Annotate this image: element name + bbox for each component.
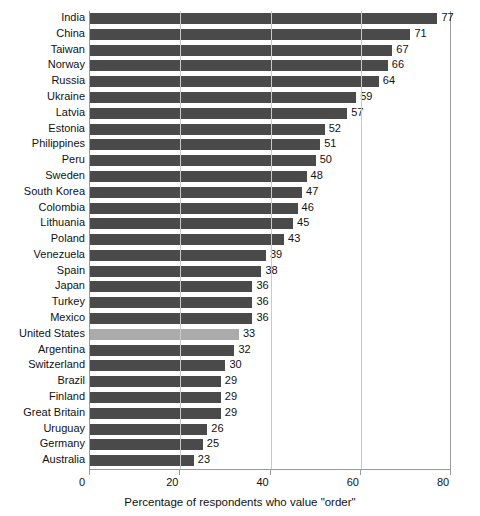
bar-value-label: 25 — [207, 437, 219, 450]
category-label-poland: Poland — [0, 232, 85, 245]
bar-venezuela — [90, 250, 266, 261]
bar-value-label: 71 — [414, 27, 426, 40]
category-label-great-britain: Great Britain — [0, 406, 85, 419]
plot-area: 7771676664595752515048474645433938363636… — [89, 11, 451, 469]
bar-value-label: 48 — [311, 169, 323, 182]
category-axis-labels: IndiaChinaTaiwanNorwayRussiaUkraineLatvi… — [0, 11, 85, 469]
bar-value-label: 47 — [306, 185, 318, 198]
bar-value-label: 51 — [324, 137, 336, 150]
bar-latvia — [90, 108, 347, 119]
category-label-norway: Norway — [0, 58, 85, 71]
bar-peru — [90, 155, 316, 166]
bar-chart: IndiaChinaTaiwanNorwayRussiaUkraineLatvi… — [0, 0, 480, 516]
category-label-switzerland: Switzerland — [0, 358, 85, 371]
x-axis-title: Percentage of respondents who value "ord… — [0, 496, 480, 508]
bar-switzerland — [90, 360, 225, 371]
bar-value-label: 66 — [392, 58, 404, 71]
bar-value-label: 64 — [383, 74, 395, 87]
bar-australia — [90, 455, 194, 466]
bar-colombia — [90, 203, 298, 214]
bar-value-label: 59 — [360, 90, 372, 103]
category-label-argentina: Argentina — [0, 343, 85, 356]
x-tick-80 — [450, 469, 451, 475]
bar-value-label: 39 — [270, 248, 282, 261]
category-label-germany: Germany — [0, 437, 85, 450]
bar-united-states — [90, 329, 239, 340]
bar-value-label: 36 — [256, 311, 268, 324]
bar-norway — [90, 60, 388, 71]
category-label-estonia: Estonia — [0, 122, 85, 135]
category-label-colombia: Colombia — [0, 201, 85, 214]
bar-estonia — [90, 124, 325, 135]
bar-brazil — [90, 376, 221, 387]
bar-ukraine — [90, 92, 356, 103]
category-label-finland: Finland — [0, 390, 85, 403]
category-label-united-states: United States — [0, 327, 85, 340]
bar-value-label: 38 — [265, 264, 277, 277]
x-tick-label-80: 80 — [437, 476, 449, 489]
bar-mexico — [90, 313, 252, 324]
bar-spain — [90, 266, 261, 277]
bar-value-label: 36 — [256, 295, 268, 308]
category-label-uruguay: Uruguay — [0, 422, 85, 435]
x-tick-label-60: 60 — [347, 476, 359, 489]
bar-value-label: 46 — [302, 201, 314, 214]
x-tick-label-40: 40 — [256, 476, 268, 489]
x-tick-label-0: 0 — [79, 476, 85, 489]
category-label-sweden: Sweden — [0, 169, 85, 182]
bar-argentina — [90, 345, 234, 356]
bar-value-label: 33 — [243, 327, 255, 340]
bar-great-britain — [90, 408, 221, 419]
category-label-taiwan: Taiwan — [0, 43, 85, 56]
bar-value-label: 45 — [297, 216, 309, 229]
category-label-mexico: Mexico — [0, 311, 85, 324]
bar-value-label: 67 — [396, 43, 408, 56]
gridline-40 — [271, 11, 272, 469]
x-tick-20 — [179, 469, 180, 475]
bar-finland — [90, 392, 221, 403]
category-label-russia: Russia — [0, 74, 85, 87]
bar-poland — [90, 234, 284, 245]
category-label-spain: Spain — [0, 264, 85, 277]
x-tick-label-20: 20 — [166, 476, 178, 489]
bar-uruguay — [90, 424, 207, 435]
bar-japan — [90, 281, 252, 292]
x-tick-60 — [360, 469, 361, 475]
bar-india — [90, 13, 437, 24]
category-label-brazil: Brazil — [0, 374, 85, 387]
bar-china — [90, 29, 410, 40]
category-label-philippines: Philippines — [0, 137, 85, 150]
category-label-lithuania: Lithuania — [0, 216, 85, 229]
bar-value-label: 36 — [256, 279, 268, 292]
x-tick-40 — [270, 469, 271, 475]
bar-lithuania — [90, 218, 293, 229]
category-label-latvia: Latvia — [0, 106, 85, 119]
category-label-australia: Australia — [0, 453, 85, 466]
category-label-china: China — [0, 27, 85, 40]
category-label-india: India — [0, 11, 85, 24]
bar-value-label: 23 — [198, 453, 210, 466]
bar-value-label: 29 — [225, 374, 237, 387]
bar-value-label: 30 — [229, 358, 241, 371]
bar-value-label: 29 — [225, 406, 237, 419]
bar-value-label: 32 — [238, 343, 250, 356]
category-label-south-korea: South Korea — [0, 185, 85, 198]
bar-russia — [90, 76, 379, 87]
category-label-turkey: Turkey — [0, 295, 85, 308]
bar-value-label: 77 — [441, 11, 453, 24]
category-label-japan: Japan — [0, 279, 85, 292]
category-label-venezuela: Venezuela — [0, 248, 85, 261]
bar-philippines — [90, 139, 320, 150]
bar-value-label: 52 — [329, 122, 341, 135]
bar-taiwan — [90, 45, 392, 56]
cropped-caption-sliver-right — [390, 0, 460, 4]
bar-value-label: 29 — [225, 390, 237, 403]
bar-sweden — [90, 171, 307, 182]
bar-value-label: 50 — [320, 153, 332, 166]
gridline-20 — [180, 11, 181, 469]
category-label-ukraine: Ukraine — [0, 90, 85, 103]
bar-germany — [90, 439, 203, 450]
gridline-60 — [361, 11, 362, 469]
bar-turkey — [90, 297, 252, 308]
x-tick-0 — [89, 469, 90, 475]
